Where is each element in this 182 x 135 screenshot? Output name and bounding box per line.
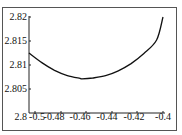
y-tick-label: 2.81 [10,59,28,70]
data-curve [29,17,163,79]
x-tick-label: -0.42 [124,111,145,122]
x-tick-label: -0.5 [29,111,45,122]
y-tick-label: 2.82 [10,11,28,22]
x-tick-label: -0.4 [155,111,171,122]
y-tick-label: 2.805 [5,83,28,94]
x-tick-label: -0.44 [97,111,118,122]
x-tick-label: -0.46 [70,111,91,122]
line-chart: 2.82 2.815 2.81 2.805 2.8 -0.5 -0.48 -0.… [0,0,182,135]
y-tick-label: 2.815 [5,35,28,46]
x-tick-label: -0.48 [44,111,65,122]
y-tick-label: 2.8 [15,111,28,122]
